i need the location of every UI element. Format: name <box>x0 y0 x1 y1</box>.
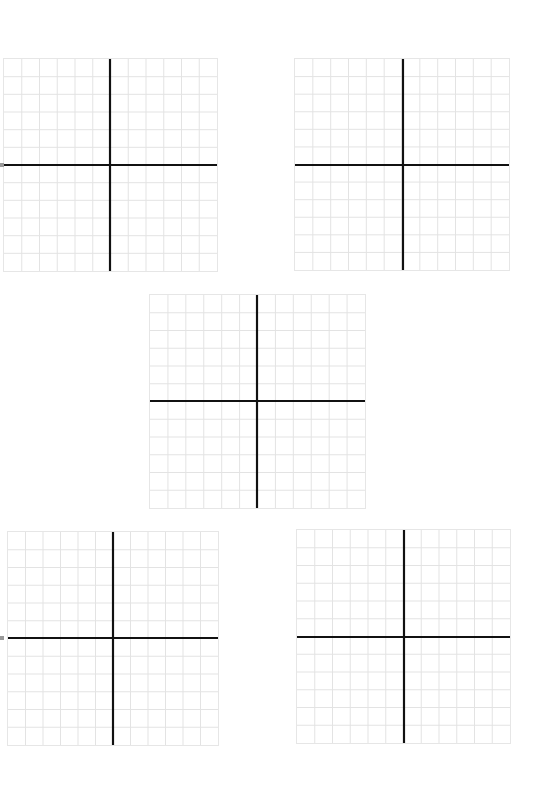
grid-lines <box>150 295 365 508</box>
grid-lines <box>4 59 217 271</box>
grid-lines <box>297 530 510 743</box>
edge-mark <box>0 636 4 640</box>
coordinate-grid <box>296 529 511 744</box>
grid-lines <box>295 59 509 270</box>
grid-lines <box>8 532 218 745</box>
edge-mark <box>0 163 4 167</box>
coordinate-grid <box>149 294 366 509</box>
coordinate-grid <box>7 531 219 746</box>
coordinate-grid <box>3 58 218 272</box>
coordinate-grid <box>294 58 510 271</box>
